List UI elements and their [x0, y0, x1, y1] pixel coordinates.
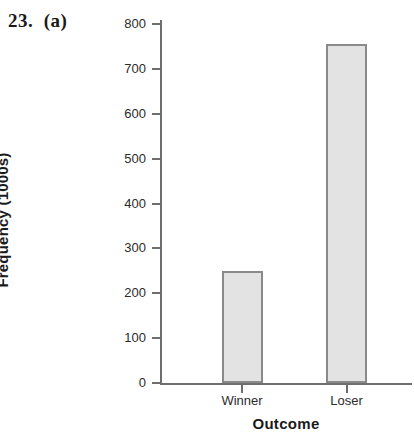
x-axis-category-label: Loser — [297, 394, 397, 407]
y-axis-tick — [152, 203, 160, 205]
x-axis-title: Outcome — [160, 415, 412, 432]
x-axis-category-label: Winner — [192, 394, 292, 407]
y-axis-tick-label: 0 — [104, 376, 146, 389]
y-axis-tick — [152, 23, 160, 25]
y-axis-tick-label: 200 — [104, 286, 146, 299]
x-axis-tick — [346, 385, 348, 393]
y-axis-tick-label: 500 — [104, 152, 146, 165]
y-axis-tick — [152, 158, 160, 160]
y-axis-tick — [152, 247, 160, 249]
x-axis-tick — [241, 385, 243, 393]
bar-chart: 0100200300400500600700800 WinnerLoser Ou… — [0, 0, 414, 439]
y-axis-tick-label: 600 — [104, 107, 146, 120]
y-axis-tick-label: 300 — [104, 241, 146, 254]
y-axis-tick — [152, 292, 160, 294]
y-axis-tick — [152, 337, 160, 339]
bar-loser — [326, 44, 367, 383]
y-axis-tick-label: 800 — [104, 17, 146, 30]
y-axis-tick-label: 400 — [104, 197, 146, 210]
y-axis-tick — [152, 382, 160, 384]
bar-winner — [222, 271, 263, 383]
y-axis-tick — [152, 68, 160, 70]
x-axis-line — [160, 383, 412, 385]
y-axis-tick-label: 100 — [104, 331, 146, 344]
y-axis-title: Frequency (1000s) — [0, 120, 11, 320]
y-axis-tick-label: 700 — [104, 62, 146, 75]
y-axis-line — [160, 20, 162, 384]
y-axis-tick — [152, 113, 160, 115]
